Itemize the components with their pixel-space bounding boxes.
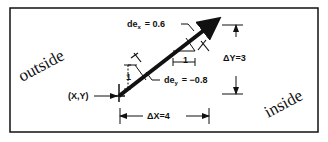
normal-tick-lower: [131, 53, 141, 62]
point-label: (X,Y): [68, 91, 89, 101]
horizontal-unit-label: 1: [183, 55, 188, 65]
dey-label: dey= −0.8: [146, 72, 207, 86]
dx-label: ΔX=4: [147, 111, 170, 121]
dy-label: ΔY=3: [223, 53, 246, 63]
vertical-unit-label: 1: [126, 72, 131, 82]
normal-tick-upper: [198, 40, 209, 51]
dex-label: dex= 0.6: [127, 19, 194, 31]
outside-label: outside: [15, 46, 67, 86]
svg-text:dey= −0.8: dey= −0.8: [164, 75, 207, 86]
edge-vector-arrow: [119, 24, 212, 96]
svg-text:dex= 0.6: dex= 0.6: [127, 19, 165, 30]
inside-label: inside: [261, 86, 306, 122]
edge-normal-diagram: (X,Y) 1 1 dex= 0.6 dey= −0.8: [0, 0, 328, 142]
